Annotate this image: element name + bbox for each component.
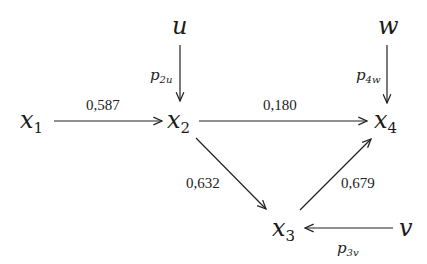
node-x1: x1 <box>20 108 43 136</box>
node-x3: x3 <box>272 216 295 244</box>
edge-label-x1-x2: 0,587 <box>86 98 120 113</box>
node-u: u <box>172 14 187 38</box>
edge-label-w-x4: p4w <box>356 68 381 85</box>
edge-label-x2-x3: 0,632 <box>186 176 220 191</box>
node-x2: x2 <box>167 108 190 136</box>
edge-label-v-x3: p3v <box>337 241 359 258</box>
edge-label-u-x2: p2u <box>150 68 172 85</box>
node-v: v <box>399 216 413 240</box>
edge-label-x2-x4: 0,180 <box>263 98 297 113</box>
edge-label-x3-x4: 0,679 <box>341 176 375 191</box>
arrow-x2-x3 <box>196 138 266 209</box>
edges-layer <box>0 0 427 264</box>
node-w: w <box>378 14 399 38</box>
path-diagram: x1 x2 x4 x3 u w v 0,587 0,180 0,632 0,67… <box>0 0 427 264</box>
node-x4: x4 <box>374 108 397 136</box>
